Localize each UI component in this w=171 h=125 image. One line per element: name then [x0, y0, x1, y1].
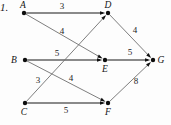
arrowhead-b-e-icon	[97, 58, 102, 61]
arrowhead-e-g-icon	[145, 58, 150, 61]
edge-weight-a-e: 4	[60, 26, 65, 36]
node-a	[22, 11, 26, 15]
edges-layer	[26, 13, 150, 103]
edge-weight-e-g: 5	[128, 47, 133, 57]
graph-figure: 1. ADBEGCF 345435458	[0, 0, 171, 125]
edge-f-g	[110, 63, 150, 101]
edge-weight-d-g: 4	[133, 25, 138, 35]
arrowhead-b-f-icon	[100, 98, 105, 102]
arrowhead-a-d-icon	[100, 11, 105, 14]
node-d	[106, 11, 110, 15]
node-label-a: A	[19, 0, 26, 10]
node-label-f: F	[104, 107, 111, 117]
node-label-c: C	[21, 107, 28, 117]
edge-weight-b-e: 5	[55, 48, 60, 58]
arrowhead-a-e-icon	[97, 55, 102, 59]
node-label-g: G	[158, 55, 165, 65]
node-label-e: E	[101, 64, 108, 74]
node-b	[23, 58, 27, 62]
node-e	[103, 58, 107, 62]
edge-weight-a-d: 3	[60, 1, 65, 11]
node-c	[23, 101, 27, 105]
node-label-b: B	[11, 55, 17, 65]
directed-weighted-graph: ADBEGCF 345435458	[0, 0, 171, 125]
edge-weight-c-d: 3	[36, 75, 41, 85]
node-label-d: D	[104, 0, 112, 10]
nodes-layer: ADBEGCF	[11, 0, 164, 117]
edge-weight-f-g: 8	[134, 76, 139, 86]
arrowhead-c-f-icon	[100, 101, 105, 104]
edge-weight-b-f: 4	[69, 73, 74, 83]
node-g	[151, 58, 155, 62]
edge-weights-layer: 345435458	[36, 1, 139, 115]
edge-weight-c-f: 5	[64, 105, 69, 115]
node-f	[106, 101, 110, 105]
